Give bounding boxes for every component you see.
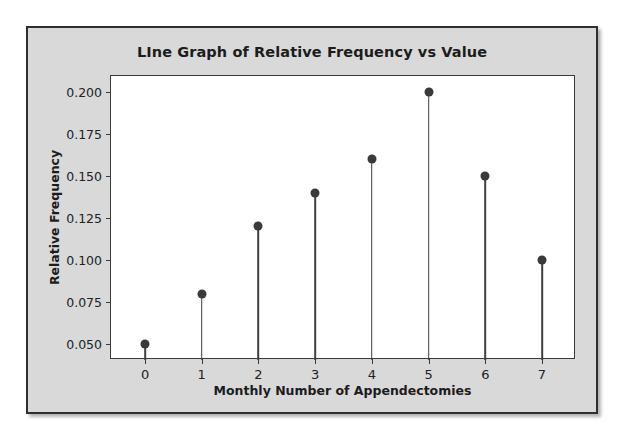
data-point-marker[interactable] (311, 188, 320, 197)
y-axis-tick-label: 0.200 (66, 84, 102, 99)
x-axis-tick-label: 5 (424, 367, 432, 382)
data-point-marker[interactable] (197, 289, 206, 298)
data-stem (541, 260, 543, 360)
data-point-marker[interactable] (424, 87, 433, 96)
y-axis-tick (106, 344, 111, 345)
x-axis-tick-label: 3 (311, 367, 319, 382)
y-axis-tick (106, 218, 111, 219)
data-stem (484, 176, 486, 360)
y-axis-tick (106, 302, 111, 303)
y-axis-tick (106, 92, 111, 93)
y-axis-tick-label: 0.175 (66, 126, 102, 141)
chart-page: LIne Graph of Relative Frequency vs Valu… (0, 0, 630, 441)
x-axis-tick-label: 4 (368, 367, 376, 382)
y-axis-tick-label: 0.150 (66, 168, 102, 183)
y-axis-tick-label: 0.125 (66, 211, 102, 226)
plot-area: 0.0500.0750.1000.1250.1500.1750.20001234… (110, 75, 575, 359)
x-axis-tick-label: 7 (538, 367, 546, 382)
x-axis-tick-label: 2 (254, 367, 262, 382)
data-stem (314, 193, 316, 360)
chart-title: LIne Graph of Relative Frequency vs Valu… (28, 44, 596, 60)
y-axis-tick (106, 176, 111, 177)
x-axis-tick-label: 6 (481, 367, 489, 382)
data-point-marker[interactable] (481, 171, 490, 180)
y-axis-tick (106, 260, 111, 261)
y-axis-title-label: Relative Frequency (48, 149, 63, 284)
y-axis-tick (106, 134, 111, 135)
data-point-marker[interactable] (367, 155, 376, 164)
y-axis-title: Relative Frequency (47, 75, 63, 359)
data-stem (428, 92, 430, 360)
x-axis-tick-label: 0 (141, 367, 149, 382)
figure-panel: LIne Graph of Relative Frequency vs Valu… (26, 26, 598, 414)
y-axis-tick-label: 0.075 (66, 295, 102, 310)
data-stem (201, 294, 203, 360)
data-point-marker[interactable] (141, 340, 150, 349)
x-axis-tick-label: 1 (198, 367, 206, 382)
data-point-marker[interactable] (537, 256, 546, 265)
y-axis-tick-label: 0.050 (66, 337, 102, 352)
y-axis-tick-label: 0.100 (66, 253, 102, 268)
x-axis-title: Monthly Number of Appendectomies (110, 383, 575, 398)
data-stem (258, 226, 260, 360)
data-point-marker[interactable] (254, 222, 263, 231)
data-stem (371, 159, 373, 360)
plot-inner: 0.0500.0750.1000.1250.1500.1750.20001234… (111, 76, 574, 358)
